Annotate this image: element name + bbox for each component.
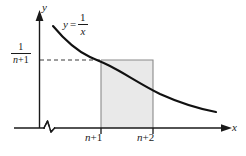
shaded-rectangle [101,60,153,128]
y-value-denominator-rest: +1 [18,54,29,65]
y-value-denominator: n+1 [11,55,31,65]
x-tick-label-0-rest: +1 [91,131,103,143]
diagram-svg [0,0,246,156]
x-axis-arrowhead [221,124,232,132]
y-value-numerator: 1 [16,42,25,52]
x-axis-label: x [232,122,237,133]
y-axis-value-label: 1 n+1 [11,42,31,65]
y-value-fraction: 1 n+1 [11,42,31,65]
equation-numerator: 1 [78,12,88,23]
equation-fraction: 1 x [78,12,88,37]
equation-lhs: y [63,19,68,30]
equation-equals-sign: = [70,19,76,30]
x-tick-label-1-rest: +2 [143,131,155,143]
x-tick-label-n-plus-1: n+1 [85,132,102,143]
figure-canvas: y x y = 1 x 1 n+1 n+1 n+2 [0,0,246,156]
equation-denominator: x [78,26,87,37]
x-tick-label-n-plus-2: n+2 [137,132,154,143]
y-axis-label: y [42,2,47,13]
axis-break-zigzag-overlay [44,121,55,132]
curve-equation-label: y = 1 x [63,12,88,37]
